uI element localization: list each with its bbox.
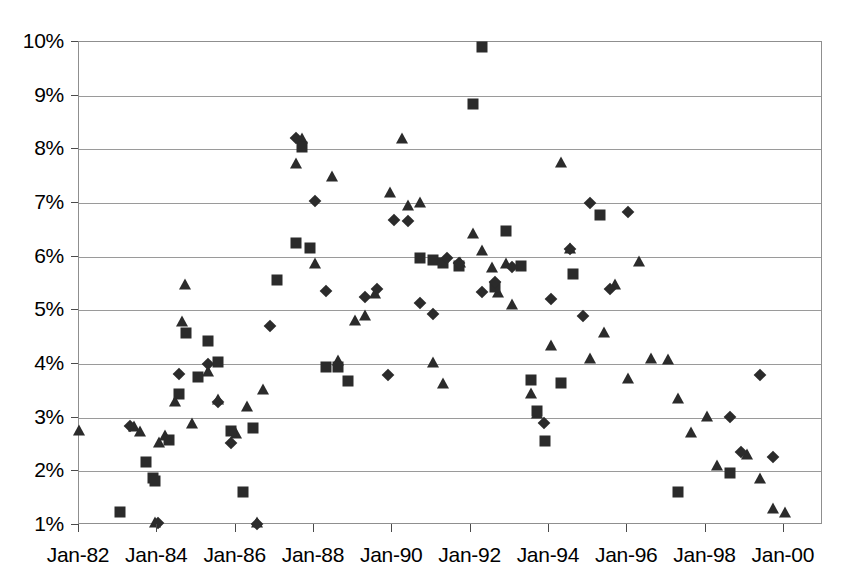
data-point-triangle	[564, 243, 576, 254]
data-point-diamond	[427, 307, 440, 320]
y-axis-tick-label: 5%	[0, 298, 64, 319]
y-axis-tick-label: 4%	[0, 352, 64, 373]
data-point-square	[555, 378, 566, 389]
data-point-triangle	[202, 365, 214, 376]
data-point-triangle	[153, 436, 165, 447]
data-point-triangle	[290, 158, 302, 169]
data-point-diamond	[381, 368, 394, 381]
data-point-triangle	[584, 352, 596, 363]
data-point-triangle	[555, 157, 567, 168]
y-axis-tick-label: 10%	[0, 30, 64, 51]
data-point-diamond	[505, 261, 518, 274]
data-point-triangle	[662, 353, 674, 364]
data-point-square	[238, 486, 249, 497]
data-point-triangle	[437, 378, 449, 389]
data-point-triangle	[711, 460, 723, 471]
data-point-square	[594, 209, 605, 220]
data-point-triangle	[622, 373, 634, 384]
data-point-triangle	[672, 393, 684, 404]
x-axis-tick	[705, 524, 706, 532]
data-point-triangle	[486, 262, 498, 273]
data-point-triangle	[296, 132, 308, 143]
y-axis-tick-label: 6%	[0, 245, 64, 266]
y-axis-tick	[71, 202, 78, 203]
data-point-square	[568, 268, 579, 279]
y-axis-tick	[71, 148, 78, 149]
x-axis-tick-label: Jan-00	[723, 544, 843, 565]
data-point-diamond	[441, 251, 454, 264]
y-axis-tick	[71, 524, 78, 525]
data-point-triangle	[134, 425, 146, 436]
data-point-diamond	[308, 194, 321, 207]
y-axis-tick-label: 8%	[0, 137, 64, 158]
data-point-triangle	[454, 257, 466, 268]
data-point-diamond	[488, 276, 501, 289]
data-point-triangle	[427, 357, 439, 368]
y-axis-tick	[71, 309, 78, 310]
data-point-square	[415, 252, 426, 263]
data-point-diamond	[544, 292, 557, 305]
data-point-square	[526, 375, 537, 386]
data-point-triangle	[609, 278, 621, 289]
data-point-square	[225, 425, 236, 436]
x-axis-tick	[470, 524, 471, 532]
data-point-triangle	[506, 299, 518, 310]
x-axis-tick	[548, 524, 549, 532]
data-point-diamond	[225, 437, 238, 450]
data-point-diamond	[452, 257, 465, 270]
data-point-square	[150, 475, 161, 486]
data-point-triangle	[128, 421, 140, 432]
data-point-square	[500, 225, 511, 236]
data-point-diamond	[564, 243, 577, 256]
data-point-square	[213, 356, 224, 367]
data-point-triangle	[257, 383, 269, 394]
data-point-diamond	[264, 320, 277, 333]
gridline	[79, 364, 821, 365]
data-point-square	[140, 456, 151, 467]
x-axis-tick	[235, 524, 236, 532]
data-point-square	[115, 507, 126, 518]
data-point-square	[297, 142, 308, 153]
data-point-triangle	[251, 517, 263, 528]
data-point-diamond	[319, 285, 332, 298]
data-point-triangle	[525, 388, 537, 399]
data-point-triangle	[349, 315, 361, 326]
data-point-square	[180, 327, 191, 338]
data-point-diamond	[124, 420, 137, 433]
data-point-square	[516, 261, 527, 272]
y-axis-tick-label: 9%	[0, 84, 64, 105]
x-axis-tick	[626, 524, 627, 532]
x-axis-tick	[78, 524, 79, 532]
data-point-triangle	[326, 171, 338, 182]
data-point-triangle	[598, 326, 610, 337]
data-point-diamond	[371, 282, 384, 295]
data-point-square	[203, 336, 214, 347]
gridline	[79, 203, 821, 204]
data-point-square	[173, 389, 184, 400]
data-point-diamond	[622, 205, 635, 218]
plot-area	[78, 41, 822, 524]
data-point-triangle	[754, 472, 766, 483]
data-point-square	[291, 237, 302, 248]
data-point-triangle	[384, 187, 396, 198]
data-point-square	[193, 371, 204, 382]
x-axis-tick	[313, 524, 314, 532]
data-point-triangle	[369, 288, 381, 299]
data-point-triangle	[476, 245, 488, 256]
data-point-triangle	[396, 132, 408, 143]
y-axis-tick-label: 3%	[0, 406, 64, 427]
data-point-diamond	[290, 131, 303, 144]
data-point-diamond	[172, 367, 185, 380]
data-point-square	[724, 468, 735, 479]
data-point-diamond	[402, 215, 415, 228]
gridline	[79, 257, 821, 258]
data-point-square	[453, 261, 464, 272]
data-point-square	[438, 258, 449, 269]
data-point-triangle	[402, 200, 414, 211]
data-point-triangle	[186, 418, 198, 429]
data-point-square	[305, 243, 316, 254]
data-point-square	[539, 436, 550, 447]
data-point-diamond	[476, 286, 489, 299]
data-point-square	[467, 98, 478, 109]
data-point-triangle	[73, 424, 85, 435]
